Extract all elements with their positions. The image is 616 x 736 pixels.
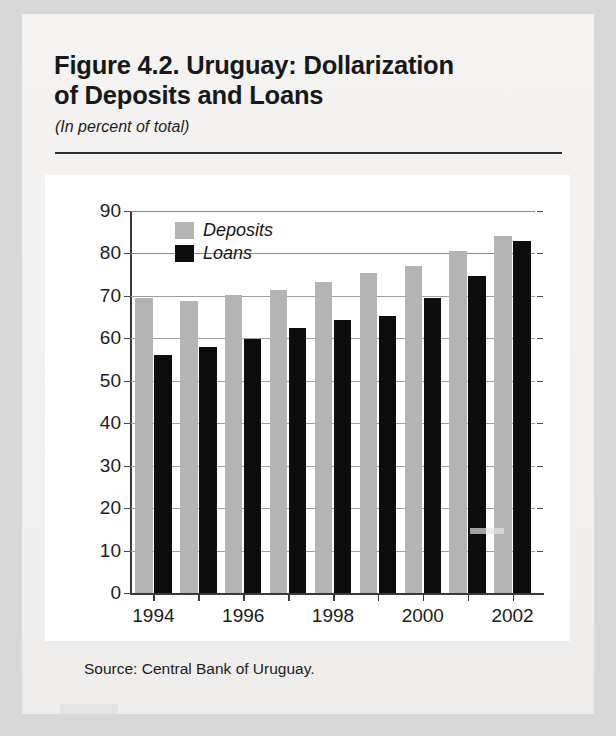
x-axis-label-1994: 1994 xyxy=(118,605,188,627)
y-tick-10 xyxy=(124,551,131,552)
x-tick-2002 xyxy=(513,593,515,601)
bar-deposits-1997 xyxy=(270,290,288,593)
scan-artifact-secondary xyxy=(470,528,504,534)
legend-swatch-deposits xyxy=(175,222,194,239)
bar-deposits-1996 xyxy=(225,295,243,593)
x-axis-label-1996: 1996 xyxy=(208,605,278,627)
bar-deposits-2002 xyxy=(494,236,512,593)
x-tick-1996 xyxy=(243,593,245,601)
bar-loans-2000 xyxy=(424,298,442,593)
x-tick-2000 xyxy=(423,593,425,601)
y-tick-60 xyxy=(124,338,131,339)
y-tick-70 xyxy=(124,296,131,297)
scan-artifact xyxy=(60,704,118,716)
source-note: Source: Central Bank of Uruguay. xyxy=(84,660,315,678)
y-axis-label-0: 0 xyxy=(61,582,121,604)
legend-label-deposits: Deposits xyxy=(203,220,273,241)
bar-group-2002 xyxy=(490,211,535,593)
figure-subtitle: (In percent of total) xyxy=(55,118,189,136)
y-tick-0 xyxy=(124,593,131,594)
y-axis-label-10: 10 xyxy=(61,540,121,562)
figure-title-line2: of Deposits and Loans xyxy=(54,80,554,110)
chart-legend: Deposits Loans xyxy=(175,219,273,265)
x-axis-label-2002: 2002 xyxy=(478,605,548,627)
legend-item-loans: Loans xyxy=(175,242,273,265)
bar-loans-1995 xyxy=(199,347,217,593)
title-divider xyxy=(55,152,562,154)
legend-label-loans: Loans xyxy=(203,243,252,264)
right-axis-cover xyxy=(535,211,537,593)
figure-title-line1: Figure 4.2. Uruguay: Dollarization xyxy=(54,50,554,80)
bar-loans-1997 xyxy=(289,328,307,593)
scanned-page: Figure 4.2. Uruguay: Dollarization of De… xyxy=(22,14,594,714)
bar-loans-1996 xyxy=(244,339,262,593)
y-axis-label-60: 60 xyxy=(61,327,121,349)
y-tick-90 xyxy=(124,211,131,212)
x-tick-1995 xyxy=(198,593,200,601)
bar-deposits-1999 xyxy=(360,273,378,593)
x-tick-2001 xyxy=(468,593,470,601)
legend-swatch-loans xyxy=(175,245,194,262)
x-tick-1994 xyxy=(153,593,155,601)
bar-loans-1999 xyxy=(379,316,397,593)
bar-group-1998 xyxy=(311,211,356,593)
plot-area: 0102030405060708090 19941996199820002002 xyxy=(131,211,535,593)
x-tick-1999 xyxy=(378,593,380,601)
chart-panel: 0102030405060708090 19941996199820002002… xyxy=(45,175,570,641)
y-axis-label-30: 30 xyxy=(61,455,121,477)
bar-deposits-1998 xyxy=(315,282,333,593)
x-axis-line xyxy=(130,593,544,595)
figure-title: Figure 4.2. Uruguay: Dollarization of De… xyxy=(54,50,554,110)
y-tick-50 xyxy=(124,381,131,382)
bar-deposits-2001 xyxy=(449,251,467,593)
legend-item-deposits: Deposits xyxy=(175,219,273,242)
y-axis-label-80: 80 xyxy=(61,242,121,264)
y-axis-label-40: 40 xyxy=(61,412,121,434)
x-axis-label-2000: 2000 xyxy=(388,605,458,627)
bar-group-2000 xyxy=(400,211,445,593)
bar-deposits-1994 xyxy=(135,298,153,593)
bar-loans-2002 xyxy=(513,241,531,593)
bar-group-1995 xyxy=(176,211,221,593)
bar-group-2001 xyxy=(445,211,490,593)
bar-deposits-1995 xyxy=(180,301,198,593)
y-tick-40 xyxy=(124,423,131,424)
bar-group-1994 xyxy=(131,211,176,593)
y-tick-80 xyxy=(124,253,131,254)
y-tick-20 xyxy=(124,508,131,509)
x-tick-1998 xyxy=(333,593,335,601)
bar-group-1997 xyxy=(266,211,311,593)
bar-loans-1994 xyxy=(154,355,172,593)
y-axis-label-90: 90 xyxy=(61,200,121,222)
bar-loans-1998 xyxy=(334,320,352,593)
y-axis-label-50: 50 xyxy=(61,370,121,392)
y-axis-label-20: 20 xyxy=(61,497,121,519)
bar-loans-2001 xyxy=(468,276,486,593)
x-axis-label-1998: 1998 xyxy=(298,605,368,627)
y-tick-30 xyxy=(124,466,131,467)
y-axis-label-70: 70 xyxy=(61,285,121,307)
bar-group-1999 xyxy=(355,211,400,593)
x-tick-1997 xyxy=(288,593,290,601)
bar-group-1996 xyxy=(221,211,266,593)
bar-series-layer xyxy=(131,211,535,593)
bar-deposits-2000 xyxy=(405,266,423,593)
